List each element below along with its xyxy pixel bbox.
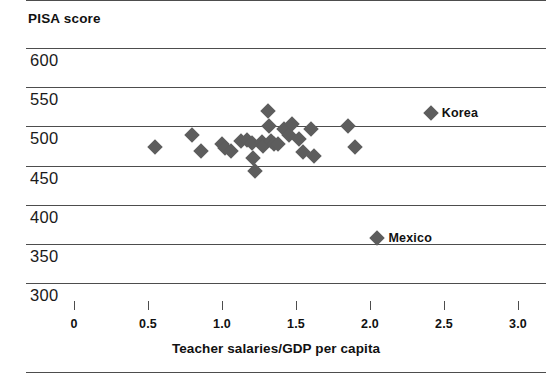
gridline-550 [26,87,546,88]
y-tick-label-450: 450 [30,170,58,187]
x-tick-label-3.0: 3.0 [509,317,527,331]
x-tick-3.0 [518,301,519,310]
y-tick-label-500: 500 [30,130,58,147]
y-tick-label-300: 300 [30,287,58,304]
gridline-600 [26,48,546,49]
y-tick-label-400: 400 [30,209,58,226]
x-tick-0.5 [148,301,149,310]
x-tick-2.5 [444,301,445,310]
gridline-400 [26,205,546,206]
x-axis-title: Teacher salaries/GDP per capita [0,341,552,356]
x-tick-label-1.5: 1.5 [287,317,305,331]
plot-area [26,48,546,310]
x-tick-label-0.5: 0.5 [139,317,157,331]
x-tick-label-2.5: 2.5 [435,317,453,331]
gridline-350 [26,244,546,245]
x-tick-1.0 [222,301,223,310]
x-tick-2.0 [370,301,371,310]
x-tick-0 [74,301,75,310]
chart-title: PISA score [28,11,101,26]
scatter-chart-figure: PISA score Teacher salaries/GDP per capi… [0,0,552,385]
y-tick-label-600: 600 [30,52,58,69]
annotation-label-korea: Korea [442,106,478,120]
x-tick-1.5 [296,301,297,310]
x-tick-label-1.0: 1.0 [213,317,231,331]
y-tick-label-350: 350 [30,248,58,265]
gridline-450 [26,166,546,167]
gridline-300 [26,283,546,284]
annotation-label-mexico: Mexico [388,231,432,245]
x-tick-label-2.0: 2.0 [361,317,379,331]
x-axis-line [26,0,546,1]
x-tick-label-0: 0 [70,317,77,331]
y-tick-label-550: 550 [30,91,58,108]
bottom-divider [26,372,546,373]
